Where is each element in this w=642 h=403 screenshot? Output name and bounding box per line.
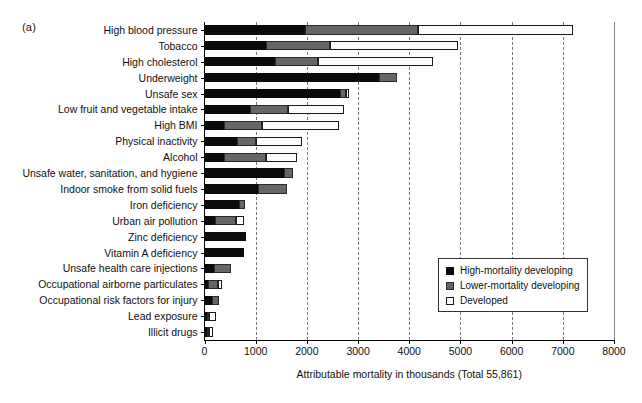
x-tick-label: 1000	[244, 345, 267, 357]
x-tick-label: 7000	[551, 345, 574, 357]
bar-segment-developed	[288, 105, 344, 114]
bar-segment-lower	[250, 105, 288, 114]
bar-segment-lower	[237, 137, 256, 146]
bar-segment-developed	[218, 280, 222, 289]
bar-segment-developed	[209, 327, 213, 336]
bar-segment-high	[205, 121, 224, 130]
bar-segment-high	[205, 248, 244, 257]
bar-row: Alcohol	[205, 149, 615, 165]
panel-label: (a)	[22, 21, 36, 33]
bar-row: Underweight	[205, 70, 615, 86]
bar-segment-developed	[262, 121, 339, 130]
x-tick	[256, 340, 257, 344]
bar-segment-high	[205, 73, 380, 82]
bar-segment-high	[205, 89, 341, 98]
bar-segment-lower	[275, 57, 318, 66]
bar-segment-high	[205, 232, 246, 241]
bar-segment-developed	[209, 312, 215, 321]
category-label: Low fruit and vegetable intake	[58, 104, 198, 115]
bar-row: Urban air pollution	[205, 213, 615, 229]
bar-row: Indoor smoke from solid fuels	[205, 181, 615, 197]
bar-segment-lower	[224, 153, 266, 162]
bar-segment-developed	[266, 153, 297, 162]
bar-segment-developed	[418, 25, 573, 34]
category-label: Illicit drugs	[148, 327, 198, 338]
x-tick	[205, 340, 206, 344]
legend-swatch-developed	[446, 297, 454, 305]
legend: High-mortality developingLower-mortality…	[438, 258, 588, 312]
category-label: Unsafe health care injections	[63, 263, 198, 274]
bar-row: Zinc deficiency	[205, 229, 615, 245]
category-label: High cholesterol	[122, 56, 197, 67]
bar-row: Low fruit and vegetable intake	[205, 102, 615, 118]
bar-segment-lower	[305, 25, 418, 34]
x-tick-label: 3000	[346, 345, 369, 357]
plot-right-edge	[614, 22, 615, 340]
bar-segment-high	[205, 137, 238, 146]
x-axis-ticks: 010002000300040005000600070008000	[205, 340, 615, 360]
bar-segment-lower	[284, 168, 293, 177]
category-label: Alcohol	[163, 152, 197, 163]
legend-item: Lower-mortality developing	[446, 280, 580, 291]
x-tick-label: 5000	[449, 345, 472, 357]
bar-row: Illicit drugs	[205, 324, 615, 340]
category-label: Occupational airborne particulates	[38, 279, 197, 290]
x-tick	[307, 340, 308, 344]
legend-label: Lower-mortality developing	[460, 280, 580, 291]
bar-row: Tobacco	[205, 38, 615, 54]
bar-segment-lower	[214, 264, 231, 273]
x-tick	[409, 340, 410, 344]
category-label: Physical inactivity	[115, 136, 197, 147]
bar-row: High BMI	[205, 117, 615, 133]
x-tick	[563, 340, 564, 344]
bar-segment-high	[205, 25, 305, 34]
figure-panel-a: (a) High blood pressureTobaccoHigh chole…	[0, 0, 642, 403]
x-tick	[460, 340, 461, 344]
category-label: Vitamin A deficiency	[104, 247, 197, 258]
bar-segment-high	[205, 216, 216, 225]
category-label: Unsafe sex	[145, 88, 198, 99]
bar-segment-lower	[208, 280, 217, 289]
x-tick	[512, 340, 513, 344]
bar-row: Physical inactivity	[205, 133, 615, 149]
bar-row: Iron deficiency	[205, 197, 615, 213]
category-label: Unsafe water, sanitation, and hygiene	[22, 168, 197, 179]
bar-segment-lower	[379, 73, 397, 82]
bar-segment-developed	[256, 137, 302, 146]
bar-segment-lower	[266, 41, 330, 50]
bar-segment-high	[205, 296, 212, 305]
x-tick-label: 2000	[295, 345, 318, 357]
bar-row: High cholesterol	[205, 54, 615, 70]
category-label: Underweight	[139, 72, 198, 83]
x-tick-label: 8000	[602, 345, 625, 357]
x-tick	[358, 340, 359, 344]
legend-swatch-high	[446, 267, 454, 275]
bar-segment-high	[205, 264, 215, 273]
x-tick-label: 6000	[500, 345, 523, 357]
x-tick-label: 0	[202, 345, 208, 357]
bar-row: Unsafe sex	[205, 86, 615, 102]
bar-segment-lower	[215, 216, 236, 225]
category-label: Occupational risk factors for injury	[39, 295, 197, 306]
bar-segment-developed	[330, 41, 458, 50]
category-label: Iron deficiency	[130, 200, 198, 211]
bar-segment-lower	[239, 200, 245, 209]
category-label: Zinc deficiency	[128, 231, 197, 242]
bar-row: High blood pressure	[205, 22, 615, 38]
bar-segment-developed	[318, 57, 433, 66]
bar-segment-lower	[212, 296, 219, 305]
bar-segment-high	[205, 105, 251, 114]
category-label: High BMI	[154, 120, 197, 131]
bar-segment-high	[205, 41, 266, 50]
legend-label: High-mortality developing	[460, 265, 573, 276]
bar-segment-high	[205, 153, 224, 162]
x-tick	[614, 340, 615, 344]
category-label: High blood pressure	[104, 25, 198, 36]
category-label: Lead exposure	[128, 311, 197, 322]
legend-swatch-lower	[446, 282, 454, 290]
bar-segment-high	[205, 168, 285, 177]
bar-segment-developed	[346, 89, 349, 98]
legend-label: Developed	[460, 295, 508, 306]
category-label: Indoor smoke from solid fuels	[60, 184, 197, 195]
bar-row: Unsafe water, sanitation, and hygiene	[205, 165, 615, 181]
